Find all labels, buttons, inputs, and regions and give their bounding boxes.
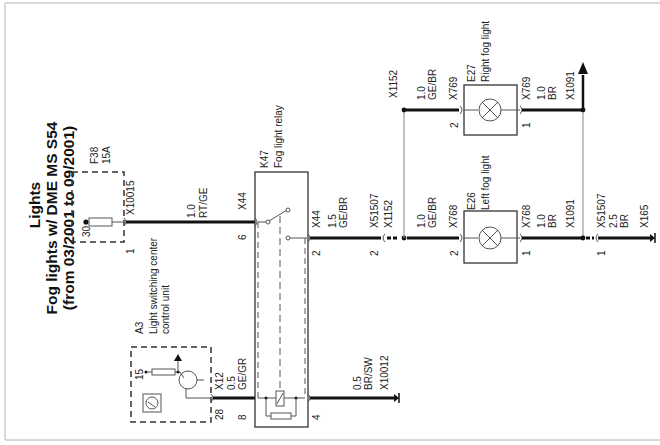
wire-color: BR bbox=[619, 214, 630, 228]
relay-pin-8: 8 bbox=[237, 414, 248, 420]
wire-color: GE/BR bbox=[427, 69, 438, 100]
diagram-title: Lights Fog lights w/ DME MS S54 (from 03… bbox=[26, 121, 77, 314]
relay-id: K47 bbox=[259, 150, 270, 168]
right-light-connector-in: X769 bbox=[448, 76, 459, 100]
wire-gauge: 1.5 bbox=[327, 214, 338, 228]
relay-connector-out: X44 bbox=[311, 210, 322, 228]
wire-color: GE/BR bbox=[427, 197, 438, 228]
a3-name-line1: Light switching center bbox=[148, 237, 159, 334]
wiring-diagram: Lights Fog lights w/ DME MS S54 (from 03… bbox=[0, 0, 660, 445]
connector-x51507: X51507 bbox=[596, 193, 607, 228]
wire-gauge: 0.5 bbox=[352, 376, 363, 390]
relay-pin-6: 6 bbox=[237, 234, 248, 240]
title-line1: Lights bbox=[26, 182, 43, 229]
title-line3: (from 03/2001 to 09/2001) bbox=[60, 126, 77, 310]
right-light-pin-2: 2 bbox=[449, 122, 460, 128]
left-light-name: Left fog light bbox=[480, 155, 491, 210]
splice-x1091-top: X1091 bbox=[565, 71, 576, 100]
a3-id: A3 bbox=[134, 321, 145, 334]
relay-pin-4: 4 bbox=[311, 414, 322, 420]
arrow-up-icon bbox=[578, 62, 588, 74]
left-light-connector-in: X768 bbox=[448, 204, 459, 228]
relay-name: Fog light relay bbox=[273, 105, 284, 168]
fuse-element-icon bbox=[89, 218, 112, 226]
fuse-terminal-dot bbox=[83, 219, 88, 224]
left-fog-light-e26: E26 Left fog light 1 X768 bbox=[460, 155, 532, 263]
right-light-pin-1: 1 bbox=[521, 122, 532, 128]
control-unit-a3: A3 Light switching center control unit 1… bbox=[131, 237, 225, 422]
relay-resistor-icon bbox=[271, 413, 291, 419]
wire-color: BR bbox=[547, 214, 558, 228]
wire-gauge: 2.5 bbox=[608, 214, 619, 228]
relay-connector-in: X44 bbox=[237, 192, 248, 210]
fuse-rating: 15A bbox=[101, 146, 112, 164]
right-light-connector-out: X769 bbox=[521, 76, 532, 100]
left-light-connector-out: X768 bbox=[521, 204, 532, 228]
resistor-icon bbox=[152, 369, 175, 375]
fuse-f38: F38 15A 30 1 X10015 bbox=[72, 146, 136, 254]
wire-color: BR bbox=[547, 86, 558, 100]
wire-color: RT/GE bbox=[198, 187, 209, 218]
arrow-up-icon bbox=[174, 354, 182, 361]
a3-pin-15: 15 bbox=[134, 368, 145, 380]
a3-pin-28: 28 bbox=[214, 408, 225, 420]
fuse-dashed-box bbox=[72, 172, 124, 242]
right-fog-light-e27: E27 Right fog light 1 X769 bbox=[460, 21, 532, 135]
relay-box bbox=[255, 172, 308, 427]
wire-gauge: 1.0 bbox=[536, 214, 547, 228]
title-line2: Fog lights w/ DME MS S54 bbox=[43, 121, 60, 314]
splice-x1152-top: X1152 bbox=[388, 69, 399, 98]
wire-color: GE/BR bbox=[338, 197, 349, 228]
wire-color: BR/SW bbox=[363, 357, 374, 390]
ground-x10012: X10012 bbox=[379, 355, 390, 390]
ground-x165: X165 bbox=[639, 204, 650, 228]
fuse-pin-1: 1 bbox=[125, 248, 136, 254]
left-light-pin-2: 2 bbox=[449, 250, 460, 256]
wire-gauge: 0.5 bbox=[226, 376, 237, 390]
wire-gauge: 1.0 bbox=[416, 86, 427, 100]
fuse-id: F38 bbox=[89, 146, 100, 164]
connector-x51507: X51507 bbox=[369, 193, 380, 228]
left-light-pin-1: 1 bbox=[521, 250, 532, 256]
relay-pin-2: 2 bbox=[311, 250, 322, 256]
a3-connector: X12 bbox=[214, 372, 225, 390]
connector-pin-2: 2 bbox=[369, 250, 380, 256]
a3-name-line2: control unit bbox=[160, 285, 171, 334]
splice-x1152: X1152 bbox=[383, 199, 394, 228]
right-light-id: E27 bbox=[466, 64, 477, 82]
wire-gauge: 1.0 bbox=[416, 214, 427, 228]
wire-gauge: 1.0 bbox=[186, 204, 197, 218]
fuse-connector: X10015 bbox=[125, 180, 136, 215]
right-light-name: Right fog light bbox=[480, 21, 491, 82]
splice-x1091: X1091 bbox=[565, 199, 576, 228]
wire-gauge: 1.0 bbox=[536, 86, 547, 100]
fuse-pin-30: 30 bbox=[81, 225, 92, 237]
left-light-id: E26 bbox=[466, 192, 477, 210]
connector-pin-1: 1 bbox=[596, 250, 607, 256]
wire-color: GE/GR bbox=[237, 358, 248, 390]
